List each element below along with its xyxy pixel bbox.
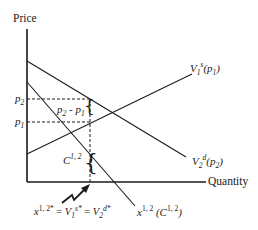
x-axis-label: Quantity [208, 176, 248, 188]
equilibrium-label: x1, 2* = V1s* = V2d* [34, 207, 111, 218]
p1-tick-label: p1 [15, 116, 24, 127]
cost-brace: { [84, 152, 98, 174]
equilibrium-arrow [62, 190, 84, 203]
supply-curve [27, 74, 192, 154]
price-gap-label: p2 - p1 [57, 104, 85, 115]
demand-curve-label: V2d(p2) [192, 156, 223, 167]
transport-curve-label: x1, 2 (C1, 2) [137, 207, 182, 218]
transport-curve [27, 82, 135, 206]
y-axis-label: Price [13, 13, 37, 25]
p2-tick-label: p2 [15, 93, 24, 104]
cost-label: C1, 2 [63, 155, 82, 166]
price-gap-brace: { [84, 98, 95, 115]
supply-curve-label: V1s(p1) [190, 63, 220, 74]
diagram-canvas [0, 0, 258, 230]
